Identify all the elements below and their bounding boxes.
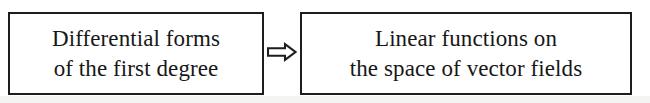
node-differential-forms-line-2: of the first degree bbox=[54, 54, 219, 84]
node-differential-forms: Differential forms of the first degree bbox=[8, 12, 264, 95]
implication-diagram: Differential forms of the first degree L… bbox=[0, 0, 650, 103]
double-arrow-right-icon bbox=[264, 36, 300, 68]
node-differential-forms-line-1: Differential forms bbox=[52, 24, 220, 54]
node-linear-functions-line-1: Linear functions on bbox=[375, 24, 557, 54]
node-linear-functions-line-2: the space of vector fields bbox=[350, 54, 583, 84]
paper-edge bbox=[0, 96, 650, 103]
node-linear-functions: Linear functions on the space of vector … bbox=[300, 12, 632, 95]
